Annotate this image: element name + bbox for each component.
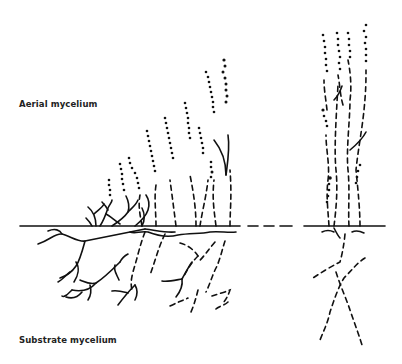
left-aerial-spore-chains [139, 135, 231, 226]
mycelium-diagram [0, 0, 402, 364]
left-substrate-mycelium [38, 229, 236, 305]
left-substrate-dashed-hyphae [131, 232, 230, 312]
right-aerial-hyphae [324, 60, 366, 226]
right-substrate-hyphae [313, 228, 365, 345]
spore-dots-left [108, 58, 229, 196]
